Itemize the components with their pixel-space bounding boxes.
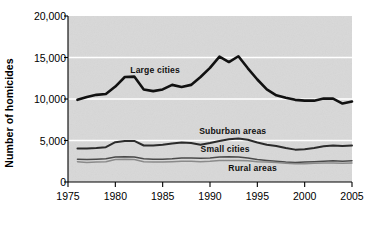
series-label-large-cities: Large cities: [130, 65, 180, 75]
x-tick-label: 2000: [293, 191, 316, 202]
x-tick-label: 1990: [198, 191, 221, 202]
x-tick-label: 1975: [56, 191, 79, 202]
x-tick-label: 1995: [246, 191, 269, 202]
series-label-suburban-areas: Suburban areas: [199, 126, 266, 136]
series-label-small-cities: Small cities: [201, 144, 250, 154]
x-tick-label: 1980: [104, 191, 127, 202]
x-tick-label: 2005: [340, 191, 363, 202]
x-tick-label: 1985: [151, 191, 174, 202]
series-label-rural-areas: Rural areas: [228, 163, 276, 173]
chart-figure: Number of homicides 20,00015,00010,0005,…: [0, 0, 370, 226]
x-axis-tick-labels: 1975198019851990199520002005: [0, 0, 370, 226]
